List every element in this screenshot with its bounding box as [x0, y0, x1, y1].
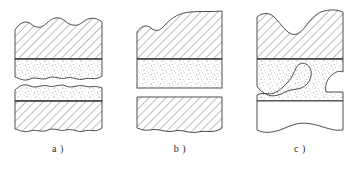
b-upper-stipple-layer — [132, 55, 227, 93]
a-lower-hatched-block — [10, 98, 110, 136]
panel-a-caption: a ) — [52, 143, 64, 155]
panel-b-caption: b ) — [174, 143, 186, 155]
figure-container: a ) b ) — [0, 0, 355, 169]
panel-c-caption: c ) — [294, 143, 306, 155]
cross-section-diagram: a ) b ) — [0, 0, 355, 169]
